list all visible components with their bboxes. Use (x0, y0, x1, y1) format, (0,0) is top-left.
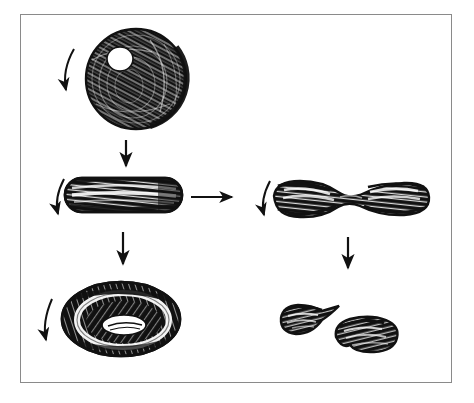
rod-cell (65, 178, 184, 212)
torus-biconcave-disc (62, 282, 180, 356)
rotation-arrow-rod (57, 179, 64, 214)
rotation-arrow-dumbbell (263, 181, 270, 215)
sphere-cell (86, 29, 187, 129)
dumbbell-cell (274, 181, 429, 217)
rotation-arrow-sphere (65, 49, 74, 90)
fragment-kidney (336, 317, 398, 352)
fragment-teardrop (281, 305, 339, 334)
sphere-highlight (107, 47, 133, 71)
diagram-canvas (0, 0, 474, 403)
figure-page (0, 0, 474, 403)
rotation-arrow-torus (45, 299, 52, 340)
